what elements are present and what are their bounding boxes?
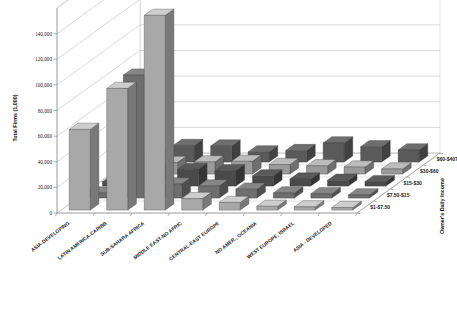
y-tick-label-80000: 80,000: [38, 108, 53, 114]
z-tickmark-5: [440, 153, 443, 154]
z-tickmark-2: [390, 189, 393, 190]
bar-front-face: [365, 182, 386, 186]
bar-side-face: [165, 9, 174, 210]
bar-front-face: [273, 193, 294, 198]
bar-front-face: [327, 180, 348, 186]
back-wall: [140, 0, 440, 153]
x-tickmark-6: [280, 213, 282, 216]
x-tickmark-5: [243, 213, 245, 216]
bar-front-face: [107, 88, 128, 210]
bar-front-face: [344, 167, 365, 174]
y-tick-label-120000: 120,000: [35, 56, 52, 62]
bar-front-face: [182, 199, 203, 211]
bar-0-0[interactable]: [69, 123, 99, 210]
x-tickmark-7: [318, 213, 320, 216]
bar-front-face: [294, 207, 315, 210]
y-tick-label-140000: 140,000: [35, 31, 52, 37]
bar-front-face: [144, 15, 165, 210]
z-tick-label-4: $60-$407: [437, 156, 457, 162]
y-tick-label-100000: 100,000: [35, 82, 52, 88]
z-tickmark-3: [407, 177, 410, 178]
z-axis-title: Owner's Daily Income: [439, 178, 445, 234]
x-tickmark-2: [130, 213, 132, 216]
bar-side-face: [90, 123, 99, 210]
z-tickmark-0: [357, 213, 360, 214]
y-tick-label-20000: 20,000: [38, 184, 53, 190]
bar-front-face: [323, 143, 344, 162]
bar-2-0[interactable]: [144, 9, 174, 210]
x-tickmark-0: [55, 213, 57, 216]
bar-1-0[interactable]: [107, 82, 137, 210]
y-tick-label-40000: 40,000: [38, 159, 53, 165]
bar-5-4[interactable]: [323, 137, 353, 162]
bar-front-face: [311, 194, 332, 198]
z-tickmark-4: [423, 165, 426, 166]
x-tick-label-7: ASIA - DEVELOPED: [292, 220, 333, 253]
y-axis-title: Total Firms (1,000): [12, 94, 18, 141]
bar-side-face: [128, 82, 137, 210]
bar-front-face: [219, 202, 240, 210]
x-tickmark-1: [93, 213, 95, 216]
bar-front-face: [290, 179, 311, 186]
z-tick-label-2: $15-$30: [404, 180, 423, 186]
bar-front-face: [382, 169, 403, 174]
bar-front-face: [348, 195, 369, 198]
z-tick-label-3: $30-$60: [420, 168, 439, 174]
three-d-bar-chart: 020,00040,00060,00080,000100,000120,0001…: [0, 0, 457, 316]
chart-container: 020,00040,00060,00080,000100,000120,0001…: [0, 0, 457, 316]
bar-front-face: [332, 208, 353, 211]
z-tick-label-0: $1-$7.50: [370, 204, 390, 210]
x-tickmark-8: [355, 213, 357, 216]
bar-front-face: [398, 150, 419, 162]
bar-front-face: [69, 129, 90, 210]
y-tick-label-60000: 60,000: [38, 133, 53, 139]
z-tick-label-1: $7.50-$15: [387, 192, 410, 198]
bar-6-4[interactable]: [361, 141, 391, 163]
x-tickmark-4: [205, 213, 207, 216]
bar-front-face: [257, 206, 278, 210]
x-tick-label-0: ASIA-DEVELOPING: [30, 220, 71, 253]
y-tick-label-0: 0: [49, 210, 52, 216]
x-tickmark-3: [168, 213, 170, 216]
z-tickmark-1: [374, 201, 377, 202]
bar-front-face: [361, 147, 382, 162]
